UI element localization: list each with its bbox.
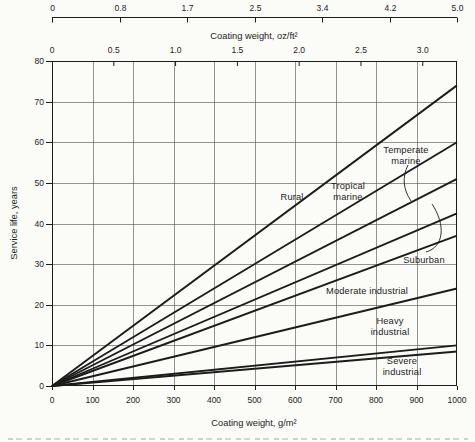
x-axis-tick-label: 400 <box>207 395 221 405</box>
top-scale-tick-label: 1.7 <box>182 3 194 13</box>
top-scale-tick-label: 4.2 <box>385 3 397 13</box>
x-axis-tick-label: 700 <box>328 395 342 405</box>
oz-axis-tick-labels: 00.51.01.52.02.53.0 <box>52 45 457 56</box>
curve-label-suburban: Suburban <box>403 255 445 266</box>
oz-axis-tick-label: 2.5 <box>355 45 367 55</box>
oz-axis-tick-label: 1.5 <box>231 45 243 55</box>
y-axis-tick-label: 0 <box>39 381 44 391</box>
x-axis-tick-label: 0 <box>50 395 55 405</box>
figure-canvas: 00.81.72.53.44.25.0 Coating weight, oz/f… <box>0 0 475 442</box>
plot-area: RuralTropical marineTemperate marineSubu… <box>52 61 457 386</box>
series-line-tropical-marine <box>52 142 457 386</box>
y-axis-tick-label: 10 <box>35 340 44 350</box>
y-axis-tick-label: 70 <box>35 97 44 107</box>
oz-axis-tick-label: 0 <box>50 45 55 55</box>
curve-label-rural: Rural <box>281 192 304 203</box>
top-scale-tick-label: 5.0 <box>452 3 464 13</box>
top-scale-tick-label: 0.8 <box>115 3 127 13</box>
series-line-rural <box>52 85 457 386</box>
x-axis-tick-label: 900 <box>409 395 423 405</box>
top-scale-tick-labels: 00.81.72.53.44.25.0 <box>52 3 457 14</box>
oz-axis-tick-label: 3.0 <box>417 45 429 55</box>
top-scale-tick-label: 2.5 <box>250 3 262 13</box>
x-axis-title: Coating weight, g/m² <box>211 418 296 429</box>
curve-label-heavy-industrial: Heavy industrial <box>357 316 424 338</box>
y-axis-tick-label: 80 <box>35 56 44 66</box>
y-axis-title: Service life, years <box>9 186 19 259</box>
curve-label-tropical-marine: Tropical marine <box>331 181 365 203</box>
y-axis-tick-label: 20 <box>35 300 44 310</box>
series-line-temperate-marine <box>52 179 457 386</box>
y-axis-tick-label: 60 <box>35 137 44 147</box>
curve-label-temperate-marine: Temperate marine <box>383 145 428 167</box>
y-axis-tick-label: 50 <box>35 178 44 188</box>
y-axis-tick-label: 30 <box>35 259 44 269</box>
x-axis-tick-label: 1000 <box>448 395 467 405</box>
curve-label-severe-industrial: Severe industrial <box>375 356 430 378</box>
top-scale-tick-label: 0 <box>50 3 55 13</box>
top-scale-tick-label: 3.4 <box>317 3 329 13</box>
oz-axis-title: Coating weight, oz/ft² <box>210 31 297 42</box>
x-axis-tick-label: 200 <box>126 395 140 405</box>
x-axis-tick-labels: 01002003004005006007008009001000 <box>52 395 457 406</box>
x-axis-tick-label: 800 <box>369 395 383 405</box>
oz-axis-tick-label: 2.0 <box>293 45 305 55</box>
x-axis-tick-label: 500 <box>247 395 261 405</box>
y-axis-tick-labels: 01020304050607080 <box>20 61 44 386</box>
x-axis-tick-label: 600 <box>288 395 302 405</box>
oz-axis-tick-label: 0.5 <box>108 45 120 55</box>
x-axis-tick-label: 300 <box>166 395 180 405</box>
oz-axis-tick-label: 1.0 <box>170 45 182 55</box>
curve-label-moderate-industrial: Moderate industrial <box>326 286 408 297</box>
cropped-caption-remnant <box>8 438 468 440</box>
y-axis-tick-label: 40 <box>35 219 44 229</box>
top-scale-axis <box>52 17 457 24</box>
x-axis-tick-label: 100 <box>85 395 99 405</box>
